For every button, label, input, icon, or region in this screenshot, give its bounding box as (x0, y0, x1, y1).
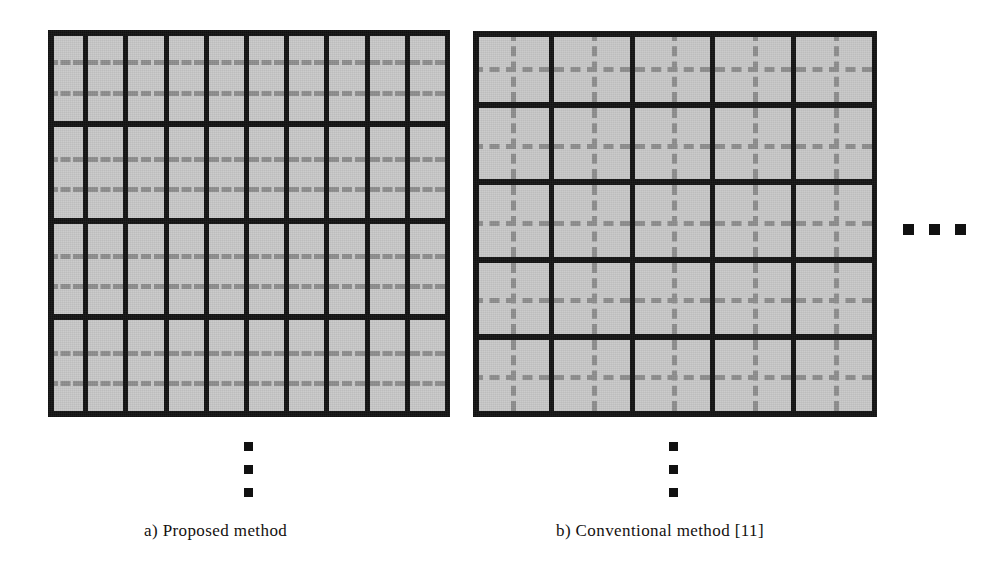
dashed-vertical-line (834, 340, 839, 411)
dashed-horizontal-line (88, 60, 123, 65)
dashed-vertical-line (592, 340, 597, 411)
dashed-vertical-line (672, 31, 677, 102)
grid-cell (554, 263, 635, 340)
grid-cell (209, 127, 249, 224)
panel-conventional-method (473, 31, 877, 417)
dashed-vertical-line (753, 263, 758, 334)
ellipsis-dot (903, 224, 914, 235)
dashed-horizontal-line (209, 351, 244, 356)
dashed-horizontal-line (289, 284, 324, 289)
dashed-horizontal-line (329, 91, 364, 96)
grid-cell (169, 127, 209, 224)
dashed-vertical-line (753, 31, 758, 102)
ellipsis-dot (669, 465, 678, 474)
dashed-vertical-line (834, 263, 839, 334)
grid-cell (796, 31, 877, 108)
grid-cell (554, 185, 635, 262)
dashed-horizontal-line (289, 91, 324, 96)
dashed-horizontal-line (209, 254, 244, 259)
grid-cell (473, 263, 554, 340)
dashed-horizontal-line (88, 187, 123, 192)
grid-cell (410, 127, 450, 224)
dashed-horizontal-line (128, 60, 163, 65)
dashed-horizontal-line (410, 60, 445, 65)
dashed-vertical-line (753, 340, 758, 411)
panel-conventional-left-border (473, 31, 479, 417)
dashed-horizontal-line (209, 91, 244, 96)
grid-cell (715, 185, 796, 262)
panel-proposed-left-border (48, 30, 54, 417)
grid-cell (48, 30, 88, 127)
grid-cell (473, 108, 554, 185)
grid-cell (249, 224, 289, 321)
dashed-horizontal-line (289, 351, 324, 356)
grid-cell (635, 31, 716, 108)
grid-proposed (48, 30, 450, 417)
dashed-horizontal-line (289, 381, 324, 386)
grid-cell (249, 127, 289, 224)
dashed-horizontal-line (249, 187, 284, 192)
grid-cell (128, 224, 168, 321)
dashed-vertical-line (834, 108, 839, 179)
dashed-vertical-line (592, 31, 597, 102)
dashed-horizontal-line (370, 351, 405, 356)
grid-cell (370, 30, 410, 127)
dashed-horizontal-line (249, 157, 284, 162)
dashed-horizontal-line (169, 284, 204, 289)
dashed-horizontal-line (410, 187, 445, 192)
caption-proposed-method: a) Proposed method (144, 521, 287, 541)
dashed-horizontal-line (289, 60, 324, 65)
grid-cell (715, 340, 796, 417)
grid-cell (169, 30, 209, 127)
ellipsis-dot (669, 488, 678, 497)
dashed-horizontal-line (209, 284, 244, 289)
dashed-horizontal-line (329, 157, 364, 162)
dashed-horizontal-line (169, 60, 204, 65)
grid-cell (48, 224, 88, 321)
grid-cell (554, 108, 635, 185)
grid-cell (370, 320, 410, 417)
grid-cell (48, 320, 88, 417)
ellipsis-dot (244, 442, 253, 451)
dashed-horizontal-line (88, 157, 123, 162)
grid-cell (635, 263, 716, 340)
dashed-vertical-line (753, 185, 758, 256)
ellipsis-dot (669, 442, 678, 451)
grid-cell (635, 108, 716, 185)
dashed-horizontal-line (88, 351, 123, 356)
dashed-horizontal-line (410, 91, 445, 96)
dashed-horizontal-line (128, 284, 163, 289)
grid-cell (128, 127, 168, 224)
grid-cell (410, 224, 450, 321)
dashed-vertical-line (592, 108, 597, 179)
grid-cell (169, 320, 209, 417)
grid-cell (473, 31, 554, 108)
grid-cell (329, 320, 369, 417)
dashed-horizontal-line (169, 381, 204, 386)
dashed-vertical-line (592, 185, 597, 256)
grid-cell (329, 127, 369, 224)
grid-cell (209, 30, 249, 127)
dashed-horizontal-line (88, 381, 123, 386)
ellipsis-dot (955, 224, 966, 235)
horizontal-ellipsis-continuation (903, 224, 966, 235)
grid-cell (88, 127, 128, 224)
dashed-horizontal-line (128, 351, 163, 356)
dashed-horizontal-line (169, 351, 204, 356)
dashed-horizontal-line (209, 381, 244, 386)
dashed-vertical-line (511, 340, 516, 411)
dashed-horizontal-line (169, 187, 204, 192)
dashed-horizontal-line (329, 284, 364, 289)
grid-cell (289, 127, 329, 224)
dashed-vertical-line (672, 263, 677, 334)
dashed-vertical-line (834, 185, 839, 256)
grid-cell (88, 320, 128, 417)
dashed-horizontal-line (289, 157, 324, 162)
grid-cell (796, 108, 877, 185)
dashed-horizontal-line (410, 381, 445, 386)
grid-cell (128, 320, 168, 417)
grid-cell (715, 31, 796, 108)
dashed-horizontal-line (169, 91, 204, 96)
vertical-ellipsis-proposed (244, 442, 253, 497)
dashed-horizontal-line (128, 381, 163, 386)
